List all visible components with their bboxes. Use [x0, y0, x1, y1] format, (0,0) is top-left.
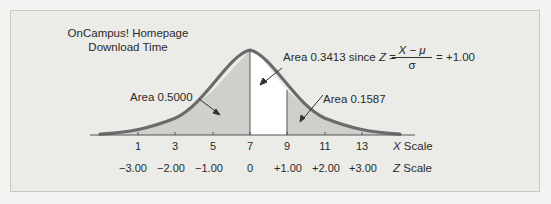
z-formula-fraction: X − μ σ — [392, 43, 432, 72]
fraction-denominator: σ — [392, 58, 432, 72]
z-tick-label: 0 — [230, 162, 270, 174]
fraction-numerator: X − μ — [392, 43, 432, 58]
x-scale-word: Scale — [401, 140, 433, 152]
z-scale-word: Scale — [400, 162, 432, 174]
x-tick-label: 9 — [267, 140, 307, 152]
z-scale-label: Z Scale — [393, 162, 432, 174]
x-tick-label: 13 — [342, 140, 382, 152]
x-tick-label: 7 — [230, 140, 270, 152]
z-tick-label: +2.00 — [306, 162, 346, 174]
z-scale-variable: Z — [393, 162, 400, 174]
chart-title-line2: Download Time — [58, 40, 198, 54]
x-tick-label: 1 — [118, 140, 158, 152]
area-middle-label: Area 0.3413 since Z = — [283, 51, 396, 63]
z-tick-label: −2.00 — [151, 162, 191, 174]
area-middle-prefix: Area 0.3413 since — [283, 51, 379, 63]
z-tick-label: +1.00 — [268, 162, 308, 174]
area-right-label: Area 0.1587 — [323, 93, 386, 105]
x-scale-label: X Scale — [393, 140, 433, 152]
x-tick-label: 11 — [305, 140, 345, 152]
chart-title-line1: OnCampus! Homepage — [58, 26, 198, 40]
chart-title: OnCampus! Homepage Download Time — [58, 26, 198, 54]
z-tick-label: −3.00 — [113, 162, 153, 174]
z-result: = +1.00 — [436, 51, 475, 63]
z-tick-label: −1.00 — [189, 162, 229, 174]
x-tick-label: 3 — [155, 140, 195, 152]
z-variable: Z — [379, 51, 386, 63]
z-tick-label: +3.00 — [343, 162, 383, 174]
x-scale-variable: X — [393, 140, 401, 152]
area-left-label: Area 0.5000 — [130, 91, 193, 103]
x-tick-label: 5 — [193, 140, 233, 152]
